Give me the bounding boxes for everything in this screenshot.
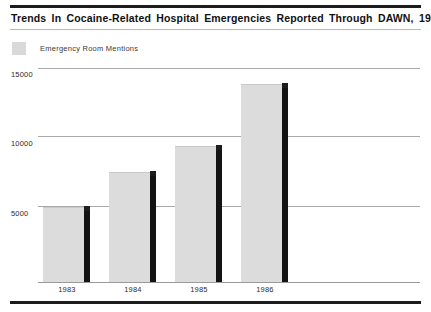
axis-baseline: [38, 282, 420, 283]
ytick-label-5000: 5000: [11, 209, 41, 218]
bar-face: [43, 207, 84, 282]
bar-1984[interactable]: [109, 171, 157, 282]
gridline-15000: [38, 68, 420, 69]
gridline-5000: [38, 206, 420, 207]
xtick-label-1985: 1985: [175, 285, 223, 294]
plot-area: 15000 10000 5000 1983 1984: [0, 0, 431, 312]
gridline-10000: [38, 136, 420, 137]
bar-face: [109, 172, 150, 282]
bar-1986[interactable]: [241, 83, 289, 282]
bar-face: [241, 84, 282, 282]
bar-top-wedge: [282, 83, 288, 88]
bar-face: [175, 146, 216, 282]
bar-side-face: [84, 211, 90, 282]
chart-figure: Trends In Cocaine-Related Hospital Emerg…: [0, 0, 431, 312]
bar-top-wedge: [150, 171, 156, 176]
bar-1983[interactable]: [43, 206, 91, 282]
ytick-label-10000: 10000: [11, 139, 41, 148]
bar-top-wedge: [216, 145, 222, 150]
bar-side-face: [216, 150, 222, 282]
xtick-label-1983: 1983: [43, 285, 91, 294]
bottom-rule: [10, 301, 421, 304]
xtick-label-1986: 1986: [241, 285, 289, 294]
bar-top-wedge: [84, 206, 90, 211]
bar-side-face: [150, 176, 156, 282]
ytick-label-15000: 15000: [11, 70, 41, 79]
xtick-label-1984: 1984: [109, 285, 157, 294]
bar-side-face: [282, 88, 288, 282]
bar-1985[interactable]: [175, 145, 223, 282]
